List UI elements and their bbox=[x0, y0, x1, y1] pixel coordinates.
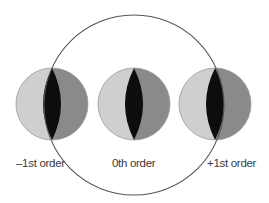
pupil-plus-first bbox=[179, 68, 251, 140]
diagram-canvas bbox=[0, 0, 269, 203]
pupil-minus-first bbox=[16, 68, 88, 140]
label-minus-first-order: –1st order bbox=[16, 158, 65, 170]
pupil-zeroth bbox=[98, 68, 170, 140]
diffraction-diagram: –1st order 0th order +1st order bbox=[0, 0, 269, 203]
label-plus-first-order: +1st order bbox=[207, 158, 256, 170]
label-zeroth-order: 0th order bbox=[112, 158, 155, 170]
